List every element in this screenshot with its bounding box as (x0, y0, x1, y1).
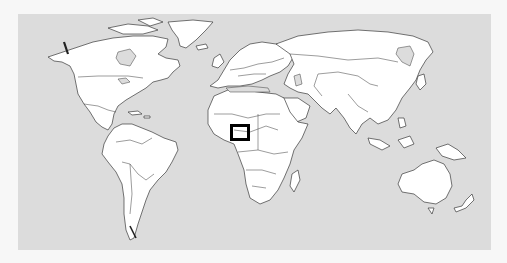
marker-region-label: West/Central Africa (Nigeria–Cameroon ar… (0, 0, 1, 1)
landmass-new-zealand (454, 194, 474, 212)
location-marker (230, 124, 250, 141)
world-map (18, 14, 491, 250)
continent-south-america (102, 124, 178, 240)
continent-australia (398, 160, 452, 204)
continent-europe (210, 42, 294, 88)
world-map-svg (18, 14, 491, 250)
landmass-new-guinea (436, 144, 466, 160)
